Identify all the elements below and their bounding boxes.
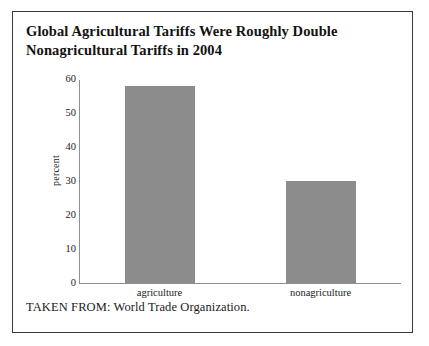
y-axis-tick-labels: 0102030405060 (50, 72, 76, 284)
y-tick-label: 30 (66, 176, 77, 186)
bar (286, 181, 356, 283)
bar (125, 86, 195, 283)
chart-plot-area: percent 0102030405060 agriculturenonagri… (26, 72, 401, 294)
figure-container: Global Agricultural Tariffs Were Roughly… (12, 11, 413, 333)
y-tick-label: 60 (66, 74, 77, 84)
y-tick-label: 20 (66, 210, 77, 220)
figure-title: Global Agricultural Tariffs Were Roughly… (26, 22, 396, 60)
figure-title-line-1: Global Agricultural Tariffs Were Roughly… (26, 22, 396, 41)
x-tick-label: nonagriculture (290, 287, 351, 298)
y-tick-label: 0 (71, 278, 76, 288)
figure-title-line-2: Nonagricultural Tariffs in 2004 (26, 41, 396, 60)
source-note: TAKEN FROM: World Trade Organization. (26, 300, 250, 315)
bars-layer (79, 72, 401, 284)
y-tick-label: 10 (66, 244, 77, 254)
y-tick-label: 50 (66, 108, 77, 118)
x-tick-label: agriculture (137, 287, 182, 298)
y-tick-label: 40 (66, 142, 77, 152)
